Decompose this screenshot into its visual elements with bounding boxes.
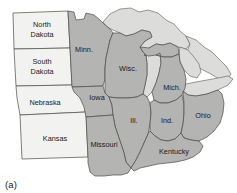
lake-erie [183, 76, 233, 96]
label-indiana: Ind. [161, 116, 173, 125]
label-ohio: Ohio [195, 111, 210, 120]
label-south-dakota-line1: South [32, 57, 51, 66]
label-wisconsin: Wisc. [119, 64, 137, 73]
label-minnesota: Minn. [75, 45, 93, 54]
label-iowa: Iowa [89, 93, 105, 102]
midwest-states-map: North Dakota South Dakota Nebraska Kansa… [0, 0, 237, 193]
label-nebraska: Nebraska [29, 98, 61, 107]
label-missouri: Missouri [90, 140, 118, 149]
label-south-dakota-line2: Dakota [30, 67, 54, 76]
label-illinois: Ill. [130, 116, 137, 125]
label-michigan: Mich. [163, 83, 180, 92]
figure-caption: (a) [5, 179, 17, 190]
label-north-dakota-line1: North [33, 20, 51, 29]
label-kentucky: Kentucky [159, 147, 189, 156]
label-kansas: Kansas [43, 134, 68, 143]
label-north-dakota-line2: Dakota [30, 30, 54, 39]
figure-panel: North Dakota South Dakota Nebraska Kansa… [0, 0, 237, 193]
